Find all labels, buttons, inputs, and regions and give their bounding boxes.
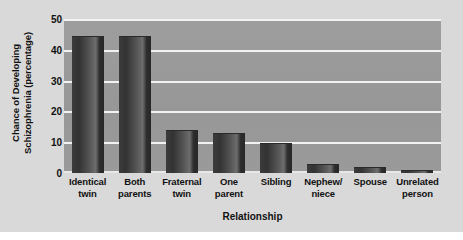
- x-tick-spouse: Spouse: [347, 176, 394, 210]
- y-axis-title-line-1: Chance of Developing: [10, 32, 22, 154]
- y-tick-20: 20: [40, 106, 62, 117]
- x-tick-one-parent: One parent: [205, 176, 252, 210]
- y-tick-40: 40: [40, 44, 62, 55]
- bar-sibling[interactable]: [260, 143, 292, 173]
- bar-unrelated-person[interactable]: [401, 170, 433, 173]
- x-tick-nephew-niece: Nephew/ niece: [300, 176, 347, 210]
- bar-slot-spouse: [347, 19, 394, 173]
- y-axis-title-line-2: Schizophrenia (percentage): [22, 32, 34, 154]
- x-tick-line-1: Sibling: [253, 176, 300, 188]
- x-tick-line-2: person: [394, 188, 441, 200]
- y-axis-tick-labels: 50 40 30 20 10 0: [40, 0, 62, 186]
- x-tick-identical-twin: Identical twin: [64, 176, 111, 210]
- bar-slot-nephew-niece: [300, 19, 347, 173]
- x-tick-both-parents: Both parents: [111, 176, 158, 210]
- chart-figure: Chance of Developing Schizophrenia (perc…: [0, 0, 463, 232]
- x-tick-unrelated-person: Unrelated person: [394, 176, 441, 210]
- bar-nephew-niece[interactable]: [307, 164, 339, 173]
- bar-slot-both-parents: [111, 19, 158, 173]
- x-tick-line-2: parents: [111, 188, 158, 200]
- bar-slot-sibling: [253, 19, 300, 173]
- bar-spouse[interactable]: [354, 167, 386, 173]
- y-tick-50: 50: [40, 14, 62, 25]
- plot-area: [64, 19, 441, 173]
- bar-both-parents[interactable]: [119, 36, 151, 173]
- x-tick-line-1: Fraternal: [158, 176, 205, 188]
- x-tick-fraternal-twin: Fraternal twin: [158, 176, 205, 210]
- bar-series: [64, 19, 441, 173]
- x-axis-tick-labels: Identical twin Both parents Fraternal tw…: [64, 176, 441, 210]
- x-tick-line-1: Spouse: [347, 176, 394, 188]
- bar-slot-unrelated-person: [394, 19, 441, 173]
- x-tick-line-1: One: [205, 176, 252, 188]
- bar-fraternal-twin[interactable]: [166, 130, 198, 173]
- x-tick-line-1: Identical: [64, 176, 111, 188]
- x-axis-title: Relationship: [64, 211, 441, 222]
- y-tick-10: 10: [40, 137, 62, 148]
- x-tick-line-2: parent: [205, 188, 252, 200]
- x-tick-line-2: twin: [64, 188, 111, 200]
- bar-one-parent[interactable]: [213, 133, 245, 173]
- figure-bottom-margin: [0, 232, 463, 240]
- x-tick-sibling: Sibling: [253, 176, 300, 210]
- y-axis-title: Chance of Developing Schizophrenia (perc…: [0, 0, 44, 186]
- bar-slot-identical-twin: [64, 19, 111, 173]
- x-tick-line-1: Both: [111, 176, 158, 188]
- bar-identical-twin[interactable]: [72, 36, 104, 173]
- x-tick-line-1: Unrelated: [394, 176, 441, 188]
- bar-slot-one-parent: [205, 19, 252, 173]
- x-tick-line-2: twin: [158, 188, 205, 200]
- x-tick-line-1: Nephew/: [300, 176, 347, 188]
- bar-slot-fraternal-twin: [158, 19, 205, 173]
- y-tick-0: 0: [40, 168, 62, 179]
- x-tick-line-2: niece: [300, 188, 347, 200]
- y-tick-30: 30: [40, 75, 62, 86]
